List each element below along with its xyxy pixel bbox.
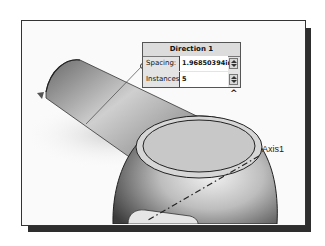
dialog-title: Direction 1 — [143, 43, 240, 57]
collapse-caret-icon[interactable]: ^ — [230, 88, 238, 98]
instances-row: Instances: 5 — [143, 72, 240, 87]
spacing-spinner[interactable] — [229, 58, 238, 69]
spacing-label: Spacing: — [146, 59, 176, 67]
top-face[interactable] — [143, 120, 255, 172]
spin-up-icon[interactable] — [231, 60, 237, 63]
direction-1-dialog: Direction 1 Spacing: 1.96850394in Instan… — [142, 42, 241, 88]
spin-down-icon[interactable] — [231, 64, 237, 67]
spacing-input[interactable]: 1.96850394in — [179, 56, 228, 71]
spacing-row: Spacing: 1.96850394in — [143, 56, 240, 71]
direction-arrow-icon[interactable] — [37, 92, 44, 99]
axis-label: Axis1 — [262, 144, 284, 154]
instances-label: Instances: — [146, 75, 182, 83]
instances-input[interactable]: 5 — [179, 72, 228, 87]
model-scene — [0, 0, 325, 246]
spin-down-icon[interactable] — [231, 80, 237, 83]
instances-spinner[interactable] — [229, 74, 238, 85]
spin-up-icon[interactable] — [231, 76, 237, 79]
